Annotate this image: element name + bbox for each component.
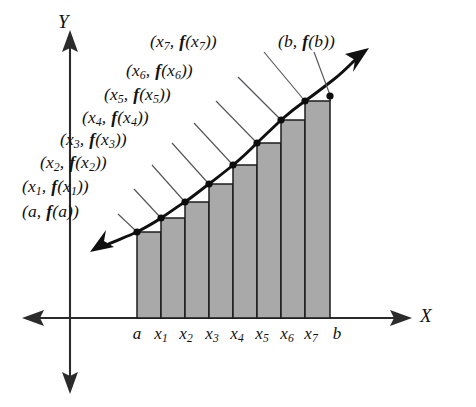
leader-line-x6 xyxy=(238,77,280,119)
curve-point-b xyxy=(326,92,333,99)
point-label-x3: (x3, f(x3)) xyxy=(60,131,127,151)
curve-point-x3 xyxy=(205,180,212,187)
tick-label-x4: x4 xyxy=(230,325,243,345)
leader-line-x3 xyxy=(172,143,208,183)
tick-label-b: b xyxy=(333,325,342,342)
point-label-a: (a, f(a)) xyxy=(22,203,79,221)
point-label-x5: (x5, f(x5)) xyxy=(104,86,171,106)
point-label-x6: (x6, f(x6)) xyxy=(126,62,193,82)
curve-point-x4 xyxy=(229,161,236,168)
curve-point-x7 xyxy=(301,97,308,104)
curve-left-arrowhead xyxy=(90,230,114,252)
tick-label-x6: x6 xyxy=(280,325,293,345)
tick-label-x1: x1 xyxy=(154,325,167,345)
tick-label-x7: x7 xyxy=(304,325,317,345)
tick-label-x3: x3 xyxy=(205,325,218,345)
curve-point-x1 xyxy=(157,214,164,221)
tick-label-x5: x5 xyxy=(255,325,268,345)
leader-line-x2 xyxy=(152,165,184,201)
point-label-b: (b, f(b)) xyxy=(278,33,335,51)
leader-line-x1 xyxy=(134,189,160,217)
point-label-x1: (x1, f(x1)) xyxy=(22,178,89,198)
point-label-x4: (x4, f(x4)) xyxy=(82,109,149,129)
leader-line-a xyxy=(118,214,136,231)
curve-point-a xyxy=(133,228,140,235)
rectangle-6 xyxy=(257,143,281,318)
tick-label-a: a xyxy=(133,325,142,342)
rectangle-3 xyxy=(185,202,209,318)
curve-right-arrowhead xyxy=(345,48,369,72)
point-label-x2: (x2, f(x2)) xyxy=(40,154,107,174)
riemann-sum-figure: Y X (a, f(a)) (x1, f(x1)) (x2, f(x2)) (x… xyxy=(0,0,476,407)
point-label-x7: (x7, f(x7)) xyxy=(150,33,217,53)
y-axis-label: Y xyxy=(58,12,69,31)
rectangle-7 xyxy=(281,120,305,318)
rectangle-8 xyxy=(305,101,330,318)
curve-point-x5 xyxy=(253,139,260,146)
tick-label-x2: x2 xyxy=(179,325,192,345)
rectangle-5 xyxy=(233,165,257,318)
curve-point-x6 xyxy=(277,116,284,123)
rectangle-1 xyxy=(137,232,161,318)
leader-line-x7 xyxy=(264,52,304,100)
rectangle-4 xyxy=(209,184,233,318)
leader-line-x5 xyxy=(216,101,256,142)
leader-line-x4 xyxy=(194,123,232,164)
curve-point-x2 xyxy=(181,198,188,205)
rectangle-2 xyxy=(161,218,185,318)
riemann-rectangles xyxy=(137,96,330,318)
x-axis-label: X xyxy=(420,306,432,325)
